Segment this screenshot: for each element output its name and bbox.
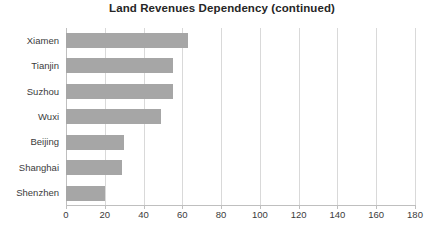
bar-wuxi[interactable] — [66, 109, 161, 124]
bar-xiamen[interactable] — [66, 33, 188, 48]
bar-row[interactable] — [66, 155, 415, 180]
bar-row[interactable] — [66, 28, 415, 53]
y-label-shenzhen: Shenzhen — [0, 187, 59, 198]
x-tick-label-40: 40 — [124, 209, 164, 220]
bar-row[interactable] — [66, 130, 415, 155]
chart-title: Land Revenues Dependency (continued) — [0, 2, 444, 14]
x-tick-label-100: 100 — [240, 209, 280, 220]
plot-area — [66, 28, 415, 206]
x-tick-label-20: 20 — [85, 209, 125, 220]
x-axis-line — [66, 205, 416, 206]
bar-row[interactable] — [66, 53, 415, 78]
bar-tianjin[interactable] — [66, 58, 173, 73]
x-tick-label-120: 120 — [279, 209, 319, 220]
y-label-beijing: Beijing — [0, 136, 59, 147]
x-tick-label-80: 80 — [201, 209, 241, 220]
y-axis-category-labels: XiamenTianjinSuzhouWuxiBeijingShanghaiSh… — [0, 28, 61, 206]
x-tick-label-140: 140 — [317, 209, 357, 220]
bar-row[interactable] — [66, 181, 415, 206]
y-label-suzhou: Suzhou — [0, 86, 59, 97]
y-label-shanghai: Shanghai — [0, 162, 59, 173]
bar-shenzhen[interactable] — [66, 186, 105, 201]
x-tick-label-0: 0 — [46, 209, 86, 220]
bar-shanghai[interactable] — [66, 160, 122, 175]
x-axis-tick-labels: 020406080100120140160180 — [0, 209, 444, 225]
bar-row[interactable] — [66, 104, 415, 129]
bar-chart: Land Revenues Dependency (continued) Xia… — [0, 0, 444, 236]
y-label-xiamen: Xiamen — [0, 35, 59, 46]
bar-suzhou[interactable] — [66, 84, 173, 99]
gridline-180 — [415, 28, 416, 206]
x-tick-label-180: 180 — [395, 209, 435, 220]
y-label-wuxi: Wuxi — [0, 111, 59, 122]
bar-row[interactable] — [66, 79, 415, 104]
y-label-tianjin: Tianjin — [0, 60, 59, 71]
bar-beijing[interactable] — [66, 135, 124, 150]
x-tick-label-160: 160 — [356, 209, 396, 220]
x-tick-label-60: 60 — [162, 209, 202, 220]
